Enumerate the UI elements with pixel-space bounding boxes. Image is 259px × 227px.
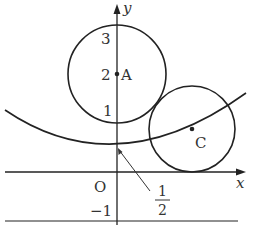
tick-1: 1 [103,102,113,120]
fraction-numerator: 1 [158,183,167,199]
parabola-curve [5,93,246,144]
fraction-denominator: 2 [158,202,167,218]
y-axis-label: y [122,0,132,17]
origin-label: O [94,178,106,196]
tick-3: 3 [101,30,111,48]
tick-2: 2 [101,66,111,84]
point-C [190,127,195,132]
point-A [115,72,120,77]
tick-minus-1: −1 [90,202,112,220]
leader-line [119,150,150,191]
y-axis-arrow-icon [114,4,121,14]
label-C: C [195,134,206,152]
x-axis-label: x [236,174,245,192]
label-A: A [120,66,132,84]
figure: y x O 3 2 1 −1 A C 1 2 [0,0,259,227]
coordinate-diagram: y x O 3 2 1 −1 A C 1 2 [0,0,259,227]
